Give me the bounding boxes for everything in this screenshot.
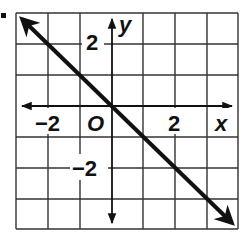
coordinate-graph: 2 y −2 O 2 x −2: [0, 0, 245, 244]
y-tick-label-neg2: −2: [72, 156, 97, 181]
y-tick-label-2: 2: [86, 30, 98, 55]
x-axis-label: x: [214, 111, 228, 136]
x-tick-label-neg2: −2: [35, 111, 60, 136]
x-tick-label-2: 2: [168, 111, 180, 136]
y-axis-label: y: [118, 12, 133, 37]
origin-label: O: [87, 111, 104, 136]
